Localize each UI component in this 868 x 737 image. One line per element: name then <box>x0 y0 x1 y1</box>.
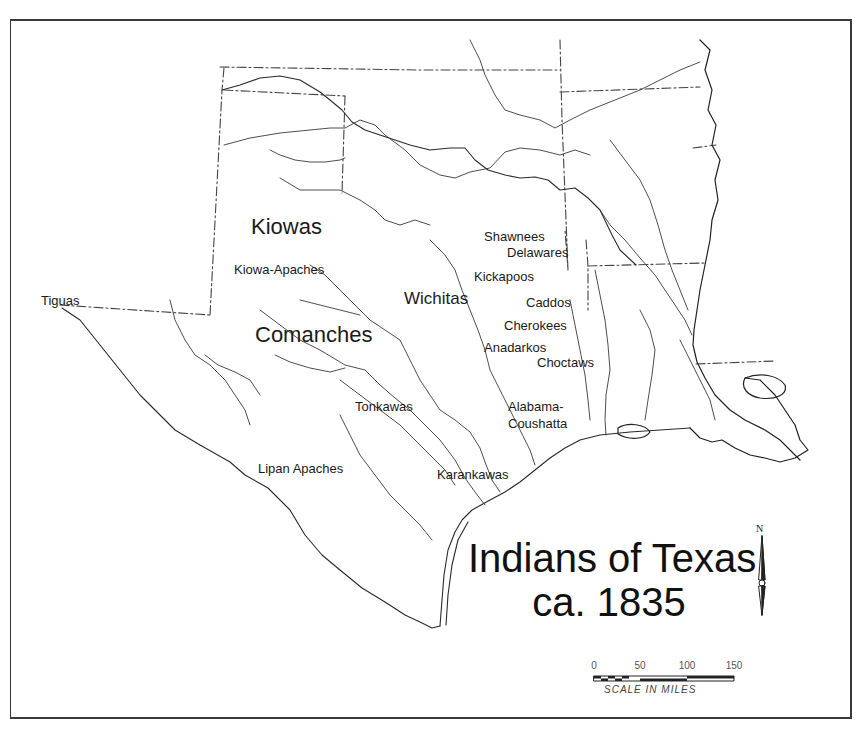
san-saba <box>275 355 345 372</box>
label-shawnees: Shawnees <box>484 230 545 243</box>
pecos <box>170 300 250 425</box>
scale-tick: 100 <box>679 660 696 671</box>
north-arrow-icon <box>759 536 765 615</box>
scale-caption: SCALE IN MILES <box>604 684 696 695</box>
texas-newmexico-south <box>60 305 210 315</box>
label-alabama: Alabama- <box>508 400 564 413</box>
label-comanches: Comanches <box>255 324 372 346</box>
oklahoma-arkansas-south <box>560 87 700 92</box>
scale-tick: 0 <box>591 660 597 671</box>
nueces <box>340 415 432 540</box>
ouachita <box>610 140 688 310</box>
state-boundaries <box>60 40 775 364</box>
label-kiowas: Kiowas <box>251 216 322 238</box>
label-lipan-apaches: Lipan Apaches <box>258 462 343 475</box>
red-river-la <box>600 210 692 335</box>
texas-newmexico-border <box>210 68 224 315</box>
label-cherokees: Cherokees <box>504 319 567 332</box>
north-canadian <box>270 150 345 162</box>
texas-louisiana-border <box>586 240 588 310</box>
mississippi-river <box>618 40 808 462</box>
louisiana-coast <box>690 378 808 462</box>
canadian-river <box>224 120 590 178</box>
label-caddos: Caddos <box>526 296 571 309</box>
label-kickapoos: Kickapoos <box>474 270 534 283</box>
map-title-line2: ca. 1835 <box>468 580 750 624</box>
devils-river <box>205 355 260 395</box>
kansas-oklahoma-border <box>220 67 560 70</box>
label-wichitas: Wichitas <box>404 290 468 307</box>
map-canvas <box>0 0 868 737</box>
rio-grande <box>62 308 440 628</box>
louisiana-mississippi-border <box>696 361 775 364</box>
scale-ticks: 0 50 100 150 <box>586 660 746 672</box>
padre-island <box>446 522 468 625</box>
map-title-line1: Indians of Texas <box>468 536 750 580</box>
arkansas-river <box>470 40 700 128</box>
label-karankawas: Karankawas <box>437 468 509 481</box>
label-delawares: Delawares <box>507 246 568 259</box>
scale-tick: 150 <box>726 660 743 671</box>
calcasieu <box>640 310 655 420</box>
label-kiowa-apaches: Kiowa-Apaches <box>234 263 324 276</box>
label-tonkawas: Tonkawas <box>355 400 413 413</box>
concho <box>300 300 360 315</box>
atchafalaya <box>680 340 715 420</box>
label-tiguas: Tiguas <box>41 294 80 307</box>
panhandle-north-border <box>224 90 345 96</box>
scale: 0 50 100 150 SCALE IN MILES <box>586 660 746 672</box>
scale-bar <box>594 676 734 681</box>
sabine <box>595 270 610 435</box>
north-label: N <box>756 523 763 534</box>
scale-tick: 50 <box>634 660 645 671</box>
label-coushatta: Coushatta <box>508 417 567 430</box>
label-anadarkos: Anadarkos <box>484 341 546 354</box>
map-title: Indians of Texas ca. 1835 <box>468 536 750 624</box>
label-choctaws: Choctaws <box>537 356 594 369</box>
